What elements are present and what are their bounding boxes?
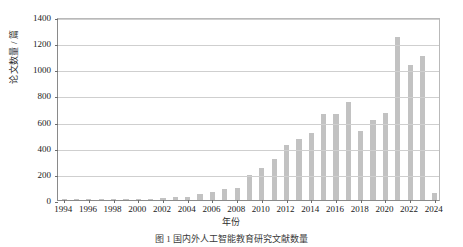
bar bbox=[148, 199, 153, 200]
x-tick-mark bbox=[311, 200, 312, 203]
x-tick-label: 2012 bbox=[277, 204, 295, 214]
x-tick-label: 1996 bbox=[79, 204, 97, 214]
y-tick-mark bbox=[55, 19, 58, 20]
x-tick-label: 2016 bbox=[326, 204, 344, 214]
bar bbox=[333, 114, 338, 200]
y-tick-label: 200 bbox=[11, 170, 51, 180]
gridline bbox=[58, 176, 439, 177]
bar bbox=[247, 175, 252, 200]
x-tick-mark bbox=[163, 200, 164, 203]
x-tick-label: 2010 bbox=[252, 204, 270, 214]
x-tick-mark bbox=[287, 200, 288, 203]
bar bbox=[272, 159, 277, 200]
gridline bbox=[58, 97, 439, 98]
plot-area bbox=[57, 18, 440, 201]
y-tick-label: 1000 bbox=[11, 65, 51, 75]
bar bbox=[197, 194, 202, 200]
bar bbox=[408, 65, 413, 200]
bar bbox=[99, 199, 104, 200]
y-tick-mark bbox=[55, 124, 58, 125]
x-tick-label: 2024 bbox=[425, 204, 443, 214]
x-tick-label: 2000 bbox=[128, 204, 146, 214]
bar bbox=[210, 192, 215, 200]
x-axis-title: 年份 bbox=[0, 215, 463, 228]
x-tick-label: 2006 bbox=[202, 204, 220, 214]
bar-series bbox=[58, 19, 439, 200]
x-tick-mark bbox=[114, 200, 115, 203]
y-tick-label: 0 bbox=[11, 196, 51, 206]
x-tick-mark bbox=[336, 200, 337, 203]
x-tick-mark bbox=[237, 200, 238, 203]
x-tick-mark bbox=[435, 200, 436, 203]
figure-bar-chart: 论文数量 / 篇 0200400600800100012001400 19941… bbox=[0, 0, 463, 247]
x-tick-mark bbox=[410, 200, 411, 203]
y-tick-mark bbox=[55, 150, 58, 151]
bar bbox=[346, 102, 351, 200]
x-tick-mark bbox=[64, 200, 65, 203]
y-tick-mark bbox=[55, 97, 58, 98]
bar bbox=[235, 188, 240, 200]
gridline bbox=[58, 150, 439, 151]
gridline bbox=[58, 71, 439, 72]
x-tick-label: 2004 bbox=[178, 204, 196, 214]
bar bbox=[309, 133, 314, 200]
x-tick-mark bbox=[89, 200, 90, 203]
y-tick-label: 800 bbox=[11, 91, 51, 101]
bar bbox=[222, 189, 227, 200]
y-tick-label: 1400 bbox=[11, 13, 51, 23]
bar bbox=[173, 197, 178, 200]
bar bbox=[370, 120, 375, 200]
y-tick-mark bbox=[55, 202, 58, 203]
bar bbox=[358, 131, 363, 200]
bar bbox=[259, 168, 264, 200]
bar bbox=[74, 199, 79, 200]
x-tick-mark bbox=[361, 200, 362, 203]
x-tick-mark bbox=[138, 200, 139, 203]
x-tick-label: 2014 bbox=[301, 204, 319, 214]
x-tick-mark bbox=[385, 200, 386, 203]
x-tick-label: 1994 bbox=[54, 204, 72, 214]
y-tick-mark bbox=[55, 71, 58, 72]
x-tick-label: 2020 bbox=[375, 204, 393, 214]
bar bbox=[383, 113, 388, 200]
x-tick-label: 1998 bbox=[104, 204, 122, 214]
x-tick-mark bbox=[188, 200, 189, 203]
x-tick-label: 2008 bbox=[227, 204, 245, 214]
y-tick-mark bbox=[55, 45, 58, 46]
bar bbox=[420, 56, 425, 200]
bar bbox=[123, 199, 128, 200]
y-tick-label: 1200 bbox=[11, 39, 51, 49]
y-tick-label: 400 bbox=[11, 144, 51, 154]
bar bbox=[321, 114, 326, 200]
bar bbox=[296, 139, 301, 200]
x-tick-mark bbox=[262, 200, 263, 203]
x-tick-label: 2018 bbox=[351, 204, 369, 214]
y-tick-label: 600 bbox=[11, 118, 51, 128]
y-tick-mark bbox=[55, 176, 58, 177]
x-tick-label: 2002 bbox=[153, 204, 171, 214]
figure-caption: 图 1 国内外人工智能教育研究文献数量 bbox=[0, 232, 463, 245]
x-tick-mark bbox=[212, 200, 213, 203]
bar bbox=[284, 145, 289, 200]
gridline bbox=[58, 124, 439, 125]
gridline bbox=[58, 45, 439, 46]
gridline bbox=[58, 19, 439, 20]
x-tick-label: 2022 bbox=[400, 204, 418, 214]
